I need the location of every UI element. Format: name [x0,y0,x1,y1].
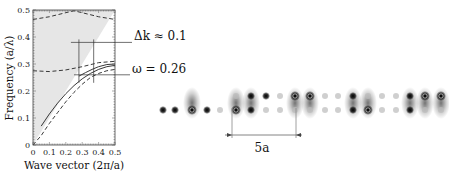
field-spot [349,106,357,114]
field-spot [406,106,414,114]
y-tick-label: 0.5 [17,6,30,15]
light-cone [33,10,115,145]
omega-annotation: ω = 0.26 [132,62,186,76]
field-spot [307,107,313,113]
field-spot [335,107,341,113]
field-spot [436,91,446,101]
y-tick-label: 0.3 [17,60,30,69]
scale-label: 5a [255,141,270,155]
y-tick-label: 0 [25,141,30,150]
field-spot [393,93,399,99]
field-spot [305,91,315,101]
field-spot [292,107,298,113]
x-tick-label: 0.2 [59,148,72,157]
field-spot [171,106,179,114]
field-spot [187,105,197,115]
field-spot [277,93,283,99]
y-tick-label: 0.4 [17,33,30,42]
figure: 00.10.20.30.40.500.10.20.30.40.5 Wave ve… [0,0,449,175]
field-spot [349,92,357,100]
field-spot [263,107,269,113]
field-spot [159,106,167,114]
delta-k-annotation: Δk ≈ 0.1 [134,29,187,43]
field-pattern [159,87,449,119]
field-spot [335,93,341,99]
band-diagram: 00.10.20.30.40.500.10.20.30.40.5 Wave ve… [3,6,187,171]
y-tick-label: 0.2 [17,87,30,96]
field-spot [363,105,373,115]
field-spot [203,106,211,114]
y-axis-label: Frequency (a/λ) [3,36,15,121]
field-spot [217,107,223,113]
field-spot [438,107,444,113]
field-spot [379,107,385,113]
field-spot [290,91,300,101]
field-spot [406,92,414,100]
field-spot [365,93,371,99]
field-spot [233,93,239,99]
field-spot [322,93,328,99]
x-tick-label: 0.4 [92,148,105,157]
field-spot [247,92,255,100]
y-tick-label: 0.1 [17,114,30,123]
x-axis-label: Wave vector (2π/a) [24,159,124,171]
field-spot [231,105,241,115]
field-spot [277,107,283,113]
field-spot [262,92,270,100]
x-tick-label: 0.1 [43,148,56,157]
field-lobe [242,87,260,119]
x-tick-label: 0 [30,148,35,157]
field-spot [422,107,428,113]
field-spot [420,91,430,101]
field-spot [322,107,328,113]
field-spot [393,107,399,113]
x-tick-label: 0.5 [109,148,122,157]
field-spot [379,93,385,99]
x-tick-label: 0.3 [76,148,89,157]
field-spot [247,106,255,114]
